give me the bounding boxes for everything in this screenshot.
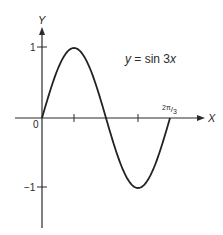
origin-label: 0 [33, 119, 39, 130]
x-axis-arrow-icon [197, 115, 205, 121]
x-tick-label-den: 3 [173, 108, 177, 115]
equation-x: x [169, 52, 177, 66]
equation-body: = sin 3 [131, 52, 170, 66]
y-axis-arrow-icon [39, 27, 45, 35]
x-axis-label: X [207, 112, 216, 124]
y-axis-label: Y [38, 14, 46, 26]
y-tick-label-pos: 1 [30, 42, 36, 53]
x-tick-label-num: 2π [162, 104, 171, 111]
y-tick-label-neg: −1 [24, 182, 36, 193]
sine-plot: Y X 0 1 −1 2π/3 y = sin 3x [0, 0, 223, 235]
equation-annotation: y = sin 3x [124, 52, 177, 66]
x-tick-label-2pi3: 2π/3 [162, 104, 177, 115]
